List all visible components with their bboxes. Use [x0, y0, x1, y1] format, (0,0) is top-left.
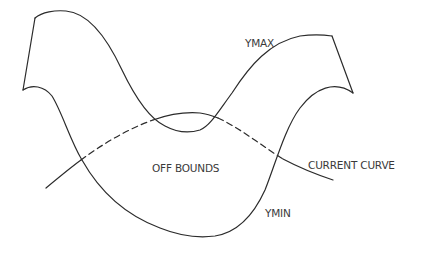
left-edge-line: [23, 18, 35, 90]
current-curve-middle-segment: [153, 113, 218, 120]
ymax-label: YMAX: [244, 37, 274, 49]
current-curve-left-segment: [46, 160, 81, 188]
bounds-diagram: YMAX OFF BOUNDS CURRENT CURVE YMIN: [0, 0, 421, 254]
off-bounds-label: OFF BOUNDS: [152, 162, 220, 174]
right-edge-line: [332, 36, 353, 93]
ymin-label: YMIN: [264, 207, 291, 219]
current-curve-offbounds-right: [218, 118, 283, 159]
current-curve-offbounds-left: [81, 120, 153, 160]
ymax-curve: [35, 11, 332, 132]
current-curve-label: CURRENT CURVE: [308, 159, 395, 171]
